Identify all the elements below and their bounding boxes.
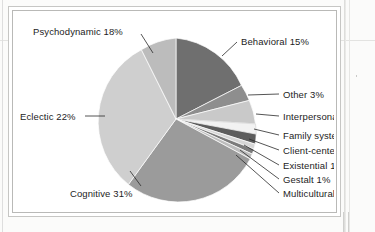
scan-speck: [356, 75, 357, 77]
label-interpersonal: Interpersonal 4%: [283, 111, 334, 122]
page-gutter: [344, 0, 346, 232]
page-gutter-edge: [349, 0, 350, 232]
leader-other: [248, 94, 279, 95]
label-client-centered: Client-centered 2%: [283, 145, 334, 156]
page-gutter-bottom: [343, 212, 349, 232]
label-existential: Existential 1%: [283, 160, 334, 171]
label-family-systems: Family systems 2%: [283, 130, 334, 141]
label-cognitive: Cognitive 31%: [70, 188, 133, 199]
scanned-page: Psychodynamic 18% Behavioral 15% Other 3…: [0, 0, 375, 232]
leader-behavioral: [222, 42, 237, 56]
pie-chart: Psychodynamic 18% Behavioral 15% Other 3…: [13, 11, 334, 210]
label-eclectic: Eclectic 22%: [20, 111, 76, 122]
label-behavioral: Behavioral 15%: [241, 36, 309, 47]
pie-slices: [98, 38, 256, 202]
leader-family-systems: [254, 129, 279, 135]
label-other: Other 3%: [283, 89, 324, 100]
label-gestalt: Gestalt 1%: [283, 174, 330, 185]
leader-interpersonal: [256, 114, 279, 116]
label-multicultural: Multicultural 1%: [283, 188, 334, 199]
page-rule-left: [2, 0, 3, 232]
label-psychodynamic: Psychodynamic 18%: [33, 26, 123, 37]
